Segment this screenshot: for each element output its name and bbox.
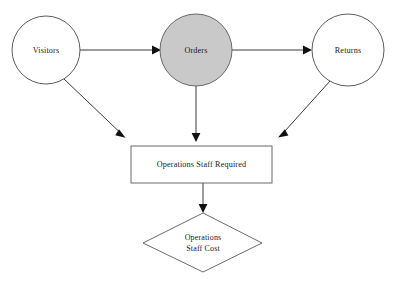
edge-line-returns-staff <box>285 81 330 131</box>
node-operations-staff-required[interactable]: Operations Staff Required <box>131 146 272 183</box>
node-orders[interactable]: Orders <box>160 14 232 86</box>
arrowhead-orders-staff <box>192 133 201 142</box>
edge-orders-to-staff-required <box>192 86 201 142</box>
edge-visitors-to-orders <box>80 46 161 55</box>
edge-line-visitors-staff <box>64 79 119 131</box>
edge-staff-required-to-staff-cost <box>199 183 208 213</box>
orders-label: Orders <box>184 46 207 55</box>
operations-staff-cost-diamond[interactable] <box>143 213 262 272</box>
flow-diagram-svg: Visitors Orders Returns Operations Staff… <box>0 0 396 281</box>
operations-staff-cost-label-line-1: Operations <box>185 233 222 242</box>
arrowhead-returns-staff <box>278 129 288 137</box>
arrowhead-visitors-staff <box>115 129 125 138</box>
arrowhead-orders-returns <box>303 46 312 55</box>
edge-orders-to-returns <box>232 46 312 55</box>
operations-staff-cost-label-line-2: Staff Cost <box>186 244 220 253</box>
node-returns[interactable]: Returns <box>312 14 384 86</box>
visitors-label: Visitors <box>33 46 60 55</box>
arrowhead-staff-cost <box>199 204 208 213</box>
returns-label: Returns <box>335 46 362 55</box>
node-operations-staff-cost[interactable]: Operations Staff Cost <box>143 213 262 272</box>
edge-visitors-to-staff-required <box>64 79 126 138</box>
operations-staff-required-label: Operations Staff Required <box>157 160 247 169</box>
diagram-canvas: Visitors Orders Returns Operations Staff… <box>0 0 396 281</box>
edge-returns-to-staff-required <box>278 81 330 138</box>
node-visitors[interactable]: Visitors <box>12 16 80 84</box>
